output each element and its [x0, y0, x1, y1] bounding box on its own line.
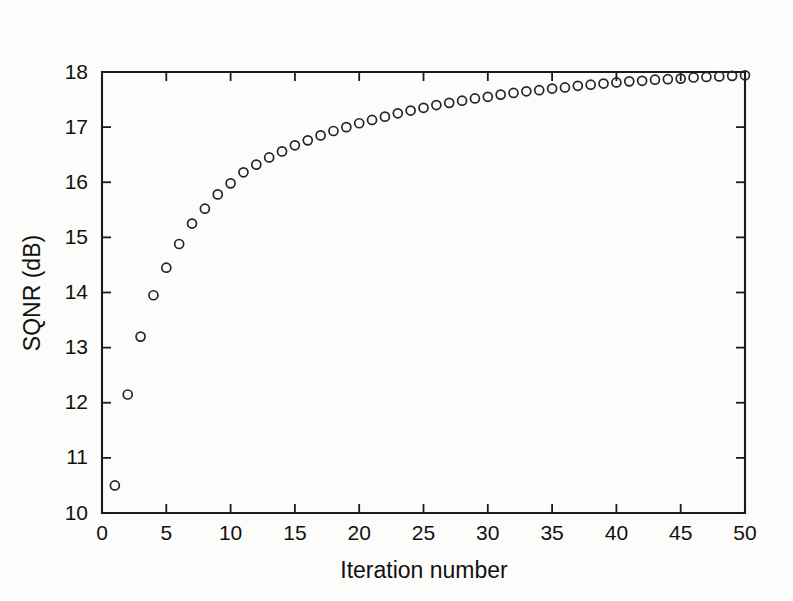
data-point: [715, 72, 724, 81]
y-tick-label: 16: [65, 170, 88, 193]
x-tick-label: 45: [669, 521, 692, 544]
data-point: [278, 147, 287, 156]
x-tick-label: 0: [96, 521, 108, 544]
data-point: [560, 83, 569, 92]
x-tick-label: 40: [605, 521, 628, 544]
data-point: [175, 239, 184, 248]
data-point: [548, 84, 557, 93]
data-point: [522, 87, 531, 96]
data-point: [342, 123, 351, 132]
data-point: [470, 94, 479, 103]
data-point: [303, 136, 312, 145]
data-point: [316, 131, 325, 140]
y-tick-label: 14: [65, 280, 89, 303]
data-point: [200, 204, 209, 213]
data-point: [496, 90, 505, 99]
figure-container: 05101520253035404550 101112131415161718 …: [0, 0, 793, 601]
y-tick-label: 13: [65, 335, 88, 358]
y-tick-label: 10: [65, 501, 88, 524]
data-point: [368, 115, 377, 124]
data-point: [509, 88, 518, 97]
y-tick-label: 11: [66, 445, 88, 468]
data-point: [573, 81, 582, 90]
data-point: [213, 190, 222, 199]
data-point: [239, 168, 248, 177]
x-axis-title: Iteration number: [340, 557, 508, 583]
data-point: [406, 106, 415, 115]
data-point: [483, 92, 492, 101]
data-point: [689, 73, 698, 82]
x-tick-label: 10: [219, 521, 242, 544]
scatter-plot: 05101520253035404550 101112131415161718 …: [0, 0, 793, 601]
data-point: [393, 109, 402, 118]
x-tick-label: 15: [283, 521, 306, 544]
data-point: [252, 160, 261, 169]
x-tick-label: 30: [476, 521, 499, 544]
data-point: [535, 86, 544, 95]
data-point: [188, 219, 197, 228]
axes-frame: [102, 72, 745, 513]
data-point: [419, 103, 428, 112]
data-point: [380, 112, 389, 121]
data-point: [329, 126, 338, 135]
x-tick-label: 5: [160, 521, 172, 544]
data-point: [265, 153, 274, 162]
y-tick-label: 12: [65, 390, 88, 413]
x-tick-label: 25: [412, 521, 435, 544]
data-point: [650, 75, 659, 84]
data-point: [445, 98, 454, 107]
y-tick-label: 18: [65, 60, 88, 83]
data-point-markers: [110, 71, 749, 490]
data-point: [586, 80, 595, 89]
x-tick-label: 20: [348, 521, 371, 544]
data-point: [226, 179, 235, 188]
data-point: [702, 72, 711, 81]
x-axis-ticks: [102, 72, 745, 513]
data-point: [290, 141, 299, 150]
data-point: [432, 101, 441, 110]
data-point: [110, 481, 119, 490]
x-tick-label: 35: [540, 521, 563, 544]
data-point: [123, 390, 132, 399]
y-axis-tick-labels: 101112131415161718: [65, 60, 89, 524]
x-tick-label: 50: [733, 521, 756, 544]
y-tick-label: 15: [65, 225, 88, 248]
data-point: [663, 75, 672, 84]
y-axis-title: SQNR (dB): [19, 235, 45, 351]
data-point: [162, 263, 171, 272]
data-point: [136, 332, 145, 341]
x-axis-tick-labels: 05101520253035404550: [96, 521, 757, 544]
data-point: [149, 291, 158, 300]
data-point: [638, 76, 647, 85]
y-axis-ticks: [102, 72, 745, 513]
data-point: [599, 79, 608, 88]
data-point: [355, 119, 364, 128]
data-point: [625, 77, 634, 86]
data-point: [458, 96, 467, 105]
y-tick-label: 17: [65, 115, 88, 138]
